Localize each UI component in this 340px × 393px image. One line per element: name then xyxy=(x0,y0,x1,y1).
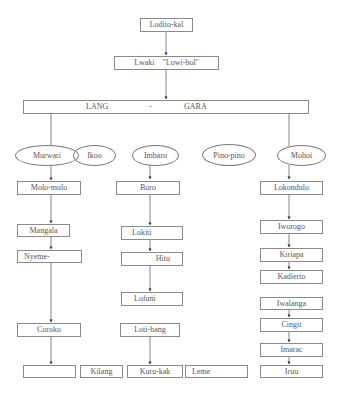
node-kilang: Kilang xyxy=(80,365,123,378)
node-hitu: Hitu xyxy=(121,252,183,266)
node-iworogo: Iworogo xyxy=(260,220,323,234)
clan-imbaro: Imbaro xyxy=(132,145,179,166)
lang-label: LANG xyxy=(86,101,108,113)
node-mangala: Mangala xyxy=(17,224,70,237)
node-iwalanga: Iwalanga xyxy=(260,297,323,310)
node-molo-molo: Molo-molo xyxy=(17,181,81,195)
clan-murwari: Murwari xyxy=(15,145,79,166)
node-empty xyxy=(23,365,76,378)
node-leme: Leme xyxy=(185,365,248,378)
node-kadierto: Kadierto xyxy=(260,270,323,284)
node-lwaki-lowi-bol: Lwaki "Lowi-bol" xyxy=(114,56,219,70)
node-kiriapa: Kiriapa xyxy=(260,248,323,262)
clan-ikoo: Ikoo xyxy=(73,145,116,166)
clan-mohoi: Mohoi xyxy=(277,145,326,166)
node-nyeme: Nyeme- xyxy=(17,250,82,263)
gara-label: GARA xyxy=(184,101,207,113)
node-cingit: Cingit xyxy=(260,318,323,332)
node-lokiti: Lokiti xyxy=(121,226,183,240)
node-lokondulo: Lokondulo xyxy=(260,181,323,195)
node-imarac: Imarac xyxy=(260,343,323,357)
node-lodito-kal: Lodito-kal xyxy=(140,18,193,32)
node-kuru-kak: Kuru-kak xyxy=(127,365,183,378)
node-loti-bang: Loti-bang xyxy=(120,323,180,337)
separator: - xyxy=(149,101,152,113)
node-boro: Boro xyxy=(116,181,180,195)
node-lofuni: Lofuni xyxy=(121,292,183,306)
node-lang-gara: LANG - GARA xyxy=(23,100,309,114)
node-iruu: Iruu xyxy=(260,365,323,378)
node-coroko: Coroko xyxy=(17,323,81,337)
clan-pino-pino: Pino-pino xyxy=(202,144,256,166)
